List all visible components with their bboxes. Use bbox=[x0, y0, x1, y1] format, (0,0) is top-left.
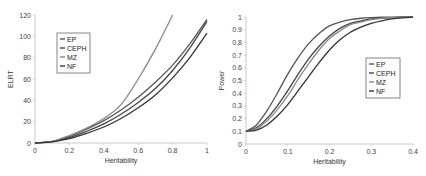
elrt-chart: 02040608010012000.20.40.60.81Heritabilit… bbox=[7, 12, 209, 166]
y-tick-label: 100 bbox=[19, 33, 31, 40]
y-tick-label: 120 bbox=[19, 12, 31, 19]
legend-label-ceph: CEPH bbox=[376, 70, 395, 77]
y-tick-label: 0.8 bbox=[232, 39, 242, 46]
x-tick-label: 0.4 bbox=[99, 147, 109, 154]
legend: EPCEPHMZNF bbox=[57, 33, 90, 73]
y-tick-label: 0.4 bbox=[232, 90, 242, 97]
y-tick-label: 0.3 bbox=[232, 102, 242, 109]
x-tick-label: 0.3 bbox=[366, 148, 376, 155]
y-tick-label: 0.2 bbox=[232, 115, 242, 122]
x-tick-label: 0.2 bbox=[325, 148, 335, 155]
y-axis-label: Power bbox=[218, 70, 225, 91]
y-tick-label: 0 bbox=[238, 141, 242, 148]
x-tick-label: 0.8 bbox=[168, 147, 178, 154]
y-tick-label: 0.9 bbox=[232, 26, 242, 33]
y-tick-label: 0 bbox=[27, 140, 31, 147]
legend-label-mz: MZ bbox=[376, 79, 387, 86]
legend-label-ep: EP bbox=[376, 61, 386, 68]
legend-label-mz: MZ bbox=[67, 54, 78, 61]
y-tick-label: 80 bbox=[23, 54, 31, 61]
power-chart: 00.10.20.30.40.50.60.70.80.9100.10.20.30… bbox=[218, 14, 418, 167]
legend: EPCEPHMZNF bbox=[366, 58, 400, 98]
x-tick-label: 1 bbox=[205, 147, 209, 154]
y-tick-label: 0.6 bbox=[232, 64, 242, 71]
x-axis-label: Heritability bbox=[313, 158, 346, 166]
figure: 02040608010012000.20.40.60.81Heritabilit… bbox=[0, 0, 426, 176]
y-tick-label: 0.7 bbox=[232, 52, 242, 59]
legend-label-nf: NF bbox=[376, 88, 385, 95]
x-tick-label: 0.4 bbox=[408, 148, 418, 155]
y-tick-label: 0.1 bbox=[232, 128, 242, 135]
y-tick-label: 60 bbox=[23, 76, 31, 83]
legend-label-ceph: CEPH bbox=[67, 45, 86, 52]
legend-label-nf: NF bbox=[67, 63, 76, 70]
y-tick-label: 1 bbox=[238, 14, 242, 21]
y-axis-label: ELRT bbox=[7, 69, 14, 87]
x-tick-label: 0.2 bbox=[65, 147, 75, 154]
x-tick-label: 0 bbox=[244, 148, 248, 155]
y-tick-label: 40 bbox=[23, 97, 31, 104]
x-axis-label: Heritability bbox=[105, 157, 138, 165]
y-tick-label: 20 bbox=[23, 118, 31, 125]
y-tick-label: 0.5 bbox=[232, 77, 242, 84]
x-tick-label: 0.1 bbox=[283, 148, 293, 155]
legend-label-ep: EP bbox=[67, 36, 77, 43]
x-tick-label: 0.6 bbox=[133, 147, 143, 154]
x-tick-label: 0 bbox=[33, 147, 37, 154]
